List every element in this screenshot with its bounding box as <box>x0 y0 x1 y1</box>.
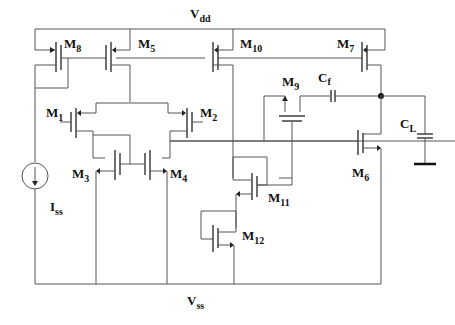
label-m7: M7 <box>337 36 354 54</box>
transistor-m12 <box>201 211 236 284</box>
label-m2: M2 <box>200 105 217 123</box>
capacitor-cl <box>414 134 436 164</box>
label-m4: M4 <box>170 166 187 184</box>
transistor-m6 <box>358 96 381 284</box>
label-m3: M3 <box>72 166 89 184</box>
circuit-schematic: Vdd M8 M5 M10 M7 <box>0 0 455 325</box>
label-m8: M8 <box>64 36 81 54</box>
transistor-m10 <box>213 42 233 178</box>
label-m12: M12 <box>242 228 264 246</box>
tail-node <box>80 103 183 113</box>
vdd-rail <box>35 29 385 50</box>
transistor-m3 <box>93 135 144 284</box>
label-cl: CL <box>400 116 416 134</box>
label-m11: M11 <box>268 190 290 208</box>
transistor-m2 <box>162 108 203 158</box>
label-iss: Iss <box>50 199 63 217</box>
transistor-m9 <box>264 96 330 178</box>
transistor-m5 <box>106 42 130 102</box>
label-m9: M9 <box>282 74 299 92</box>
label-m5: M5 <box>138 36 155 54</box>
transistor-m11 <box>233 157 292 228</box>
label-m1: M1 <box>46 105 63 123</box>
label-m6: M6 <box>352 165 369 183</box>
transistor-m4 <box>145 141 455 284</box>
transistor-m7 <box>362 42 385 96</box>
label-m10: M10 <box>240 36 262 54</box>
vss-label: Vss <box>187 293 204 311</box>
label-cf: Cf <box>318 70 331 87</box>
vdd-label: Vdd <box>190 6 211 24</box>
transistor-m1 <box>60 108 105 158</box>
current-source-iss <box>22 88 48 284</box>
